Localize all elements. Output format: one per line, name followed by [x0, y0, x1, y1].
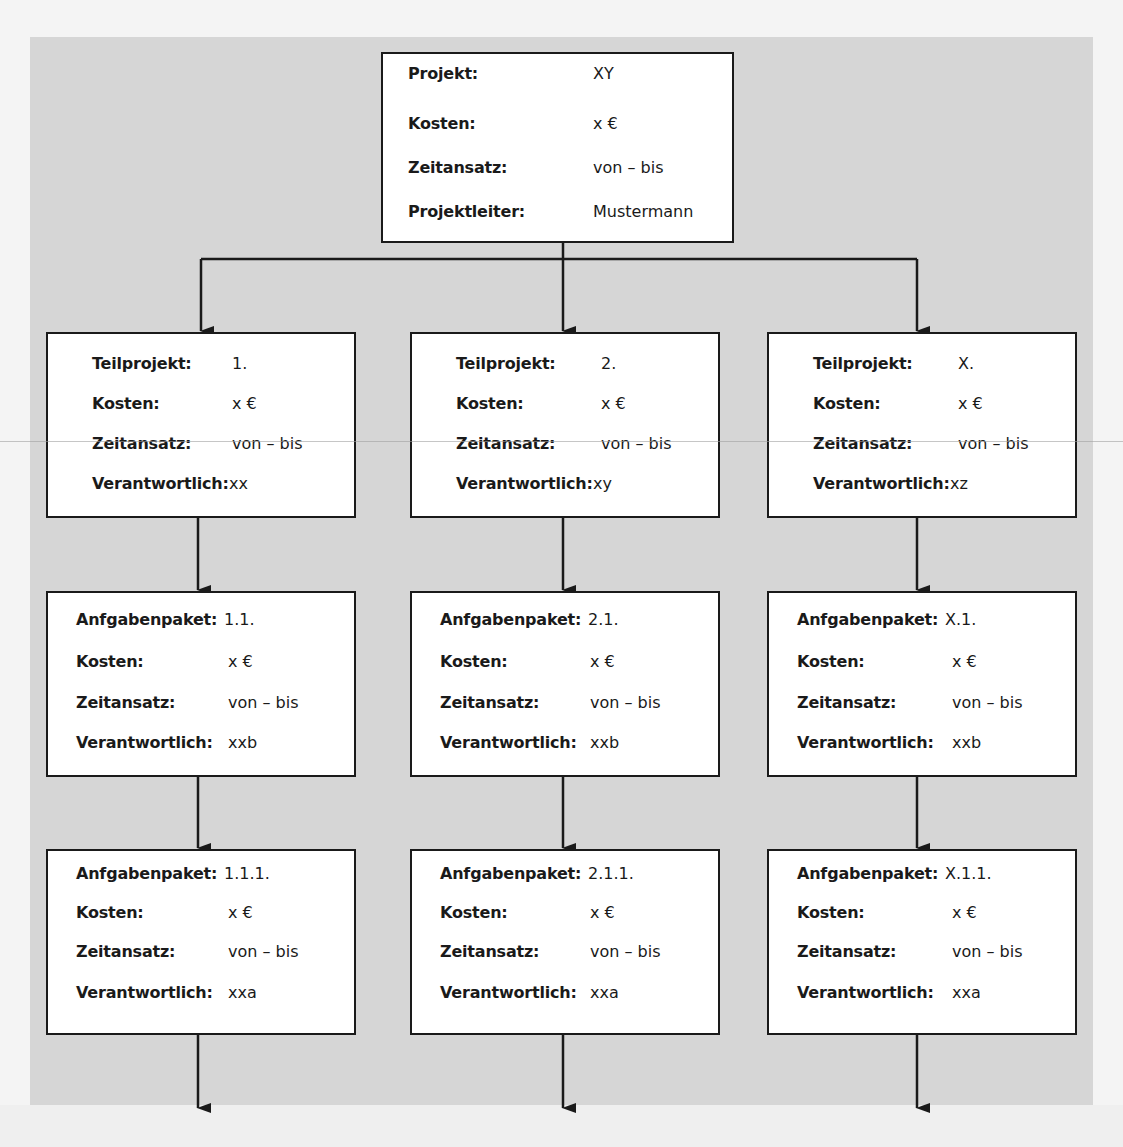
row-value: xxb	[590, 733, 619, 753]
arbeitspaket-box: Anfgabenpaket:X.1.Kosten:x €Zeitansatz:v…	[767, 591, 1077, 777]
arbeitspaket-box: Anfgabenpaket:X.1.1.Kosten:x €Zeitansatz…	[767, 849, 1077, 1035]
row-value: x €	[601, 394, 626, 414]
row-value: X.1.	[945, 610, 976, 630]
row-value: von – bis	[590, 693, 661, 713]
row-label: Zeitansatz:	[440, 693, 539, 713]
row-label: Anfgabenpaket:	[440, 864, 581, 884]
row-label: Teilprojekt:	[813, 354, 913, 374]
row-label: Teilprojekt:	[456, 354, 556, 374]
row-value: 2.	[601, 354, 616, 374]
row-value: von – bis	[228, 693, 299, 713]
row-label: Kosten:	[408, 114, 476, 134]
row-value: x €	[590, 652, 615, 672]
row-label: Verantwortlich:	[76, 733, 213, 753]
row-value: x €	[952, 652, 977, 672]
row-label: Zeitansatz:	[408, 158, 507, 178]
row-label: Kosten:	[797, 652, 865, 672]
row-value: von – bis	[232, 434, 303, 454]
row-value: 1.	[232, 354, 247, 374]
row-label: Verantwortlich:	[76, 983, 213, 1003]
row-value: x €	[593, 114, 618, 134]
row-value: x €	[232, 394, 257, 414]
row-value: xx	[229, 474, 248, 494]
row-label: Verantwortlich:	[440, 983, 577, 1003]
row-label: Anfgabenpaket:	[76, 610, 217, 630]
row-label: Kosten:	[76, 903, 144, 923]
row-value: xxa	[228, 983, 257, 1003]
row-label: Verantwortlich:	[813, 474, 950, 494]
project-box: Projekt: XY Kosten: x € Zeitansatz: von …	[381, 52, 734, 243]
row-value: xxa	[590, 983, 619, 1003]
row-label: Teilprojekt:	[92, 354, 192, 374]
row-label: Anfgabenpaket:	[797, 610, 938, 630]
row-value: 2.1.1.	[588, 864, 634, 884]
row-value: x €	[228, 903, 253, 923]
row-value: X.1.1.	[945, 864, 992, 884]
row-label: Zeitansatz:	[797, 693, 896, 713]
arbeitspaket-box: Anfgabenpaket:2.1.Kosten:x €Zeitansatz:v…	[410, 591, 720, 777]
row-label: Verantwortlich:	[797, 983, 934, 1003]
row-value: von – bis	[593, 158, 664, 178]
row-value: von – bis	[952, 693, 1023, 713]
row-label: Zeitansatz:	[76, 693, 175, 713]
row-value: XY	[593, 64, 614, 84]
row-label: Zeitansatz:	[797, 942, 896, 962]
row-label: Anfgabenpaket:	[76, 864, 217, 884]
row-value: X.	[958, 354, 974, 374]
row-value: Mustermann	[593, 202, 693, 222]
row-label: Kosten:	[440, 652, 508, 672]
row-label: Projekt:	[408, 64, 478, 84]
row-value: x €	[228, 652, 253, 672]
row-value: von – bis	[228, 942, 299, 962]
row-label: Zeitansatz:	[813, 434, 912, 454]
row-label: Verantwortlich:	[92, 474, 229, 494]
row-value: xxb	[952, 733, 981, 753]
row-value: 1.1.	[224, 610, 255, 630]
row-label: Kosten:	[440, 903, 508, 923]
teilprojekt-box: Teilprojekt:2.Kosten:x €Zeitansatz:von –…	[410, 332, 720, 518]
row-label: Zeitansatz:	[76, 942, 175, 962]
row-label: Kosten:	[813, 394, 881, 414]
row-label: Kosten:	[76, 652, 144, 672]
row-value: xz	[950, 474, 968, 494]
row-value: x €	[952, 903, 977, 923]
row-label: Kosten:	[797, 903, 865, 923]
arbeitspaket-box: Anfgabenpaket:1.1.1.Kosten:x €Zeitansatz…	[46, 849, 356, 1035]
teilprojekt-box: Teilprojekt:X.Kosten:x €Zeitansatz:von –…	[767, 332, 1077, 518]
row-value: von – bis	[590, 942, 661, 962]
row-label: Kosten:	[456, 394, 524, 414]
row-label: Verantwortlich:	[456, 474, 593, 494]
row-value: von – bis	[601, 434, 672, 454]
row-label: Zeitansatz:	[456, 434, 555, 454]
row-value: 2.1.	[588, 610, 619, 630]
row-value: xxb	[228, 733, 257, 753]
scan-line-artifact	[0, 441, 1123, 442]
row-value: von – bis	[952, 942, 1023, 962]
row-value: x €	[958, 394, 983, 414]
row-label: Kosten:	[92, 394, 160, 414]
teilprojekt-box: Teilprojekt:1.Kosten:x €Zeitansatz:von –…	[46, 332, 356, 518]
row-value: x €	[590, 903, 615, 923]
row-value: von – bis	[958, 434, 1029, 454]
row-value: xxa	[952, 983, 981, 1003]
arbeitspaket-box: Anfgabenpaket:1.1.Kosten:x €Zeitansatz:v…	[46, 591, 356, 777]
arbeitspaket-box: Anfgabenpaket:2.1.1.Kosten:x €Zeitansatz…	[410, 849, 720, 1035]
row-label: Verantwortlich:	[797, 733, 934, 753]
row-value: xy	[593, 474, 612, 494]
row-value: 1.1.1.	[224, 864, 270, 884]
row-label: Anfgabenpaket:	[440, 610, 581, 630]
row-label: Zeitansatz:	[92, 434, 191, 454]
row-label: Projektleiter:	[408, 202, 525, 222]
row-label: Verantwortlich:	[440, 733, 577, 753]
row-label: Anfgabenpaket:	[797, 864, 938, 884]
row-label: Zeitansatz:	[440, 942, 539, 962]
